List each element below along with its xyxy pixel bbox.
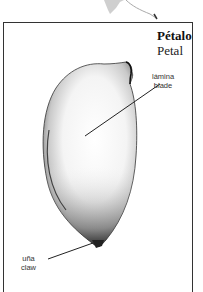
label-blade-spanish: lámina: [152, 72, 174, 81]
petal-shape: [43, 62, 137, 248]
label-blade-english: blade: [152, 81, 174, 90]
claw-leader-line: [48, 243, 93, 259]
label-blade: lámina blade: [152, 72, 174, 90]
label-claw-english: claw: [21, 263, 36, 272]
label-claw: uña claw: [21, 254, 36, 272]
label-claw-spanish: uña: [21, 254, 36, 263]
